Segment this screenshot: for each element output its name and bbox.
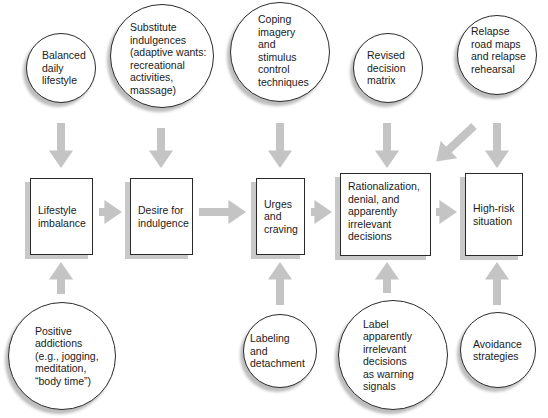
circle-label: Relapse road maps and relapse rehearsal xyxy=(471,25,526,75)
box-rationalization: Rationalization, denial, and apparently … xyxy=(340,173,431,256)
circle-revised-decision-matrix: Revised decision matrix xyxy=(353,33,423,103)
box-label: Desire for indulgence xyxy=(138,204,189,229)
circle-positive-addictions: Positive addictions (e.g., jogging, medi… xyxy=(8,302,116,410)
circle-label: Coping imagery and stimulus control tech… xyxy=(258,13,309,88)
circle-label: Substitute indulgences (adaptive wants: … xyxy=(130,21,206,96)
circle-avoidance-strategies: Avoidance strategies xyxy=(460,312,536,388)
box-label: Lifestyle imbalance xyxy=(38,204,86,229)
circle-label: Labeling and detachment xyxy=(250,332,305,370)
arrow-relapse-to-rationalization xyxy=(442,126,474,156)
box-lifestyle-imbalance: Lifestyle imbalance xyxy=(30,178,93,255)
box-label: High-risk situation xyxy=(473,202,514,227)
circle-substitute-indulgences: Substitute indulgences (adaptive wants: … xyxy=(110,4,214,108)
circle-label: Balanced daily lifestyle xyxy=(42,49,86,87)
box-high-risk-situation: High-risk situation xyxy=(465,173,523,256)
circle-label: Avoidance strategies xyxy=(473,338,522,363)
circle-relapse-road-maps: Relapse road maps and relapse rehearsal xyxy=(457,15,537,95)
circle-label: Positive addictions (e.g., jogging, medi… xyxy=(35,325,99,388)
box-label: Urges and craving xyxy=(264,198,298,236)
circle-coping-imagery: Coping imagery and stimulus control tech… xyxy=(230,2,330,102)
circle-label: Revised decision matrix xyxy=(367,49,406,87)
circle-balanced-daily-lifestyle: Balanced daily lifestyle xyxy=(26,33,96,103)
box-urges-and-craving: Urges and craving xyxy=(256,178,305,255)
circle-label-apparently-irrelevant: Label apparently irrelevant decisions as… xyxy=(338,300,448,410)
box-desire-for-indulgence: Desire for indulgence xyxy=(130,178,193,255)
box-label: Rationalization, denial, and apparently … xyxy=(348,180,420,243)
circle-labeling-and-detachment: Labeling and detachment xyxy=(243,314,317,388)
circle-label: Label apparently irrelevant decisions as… xyxy=(363,318,414,393)
